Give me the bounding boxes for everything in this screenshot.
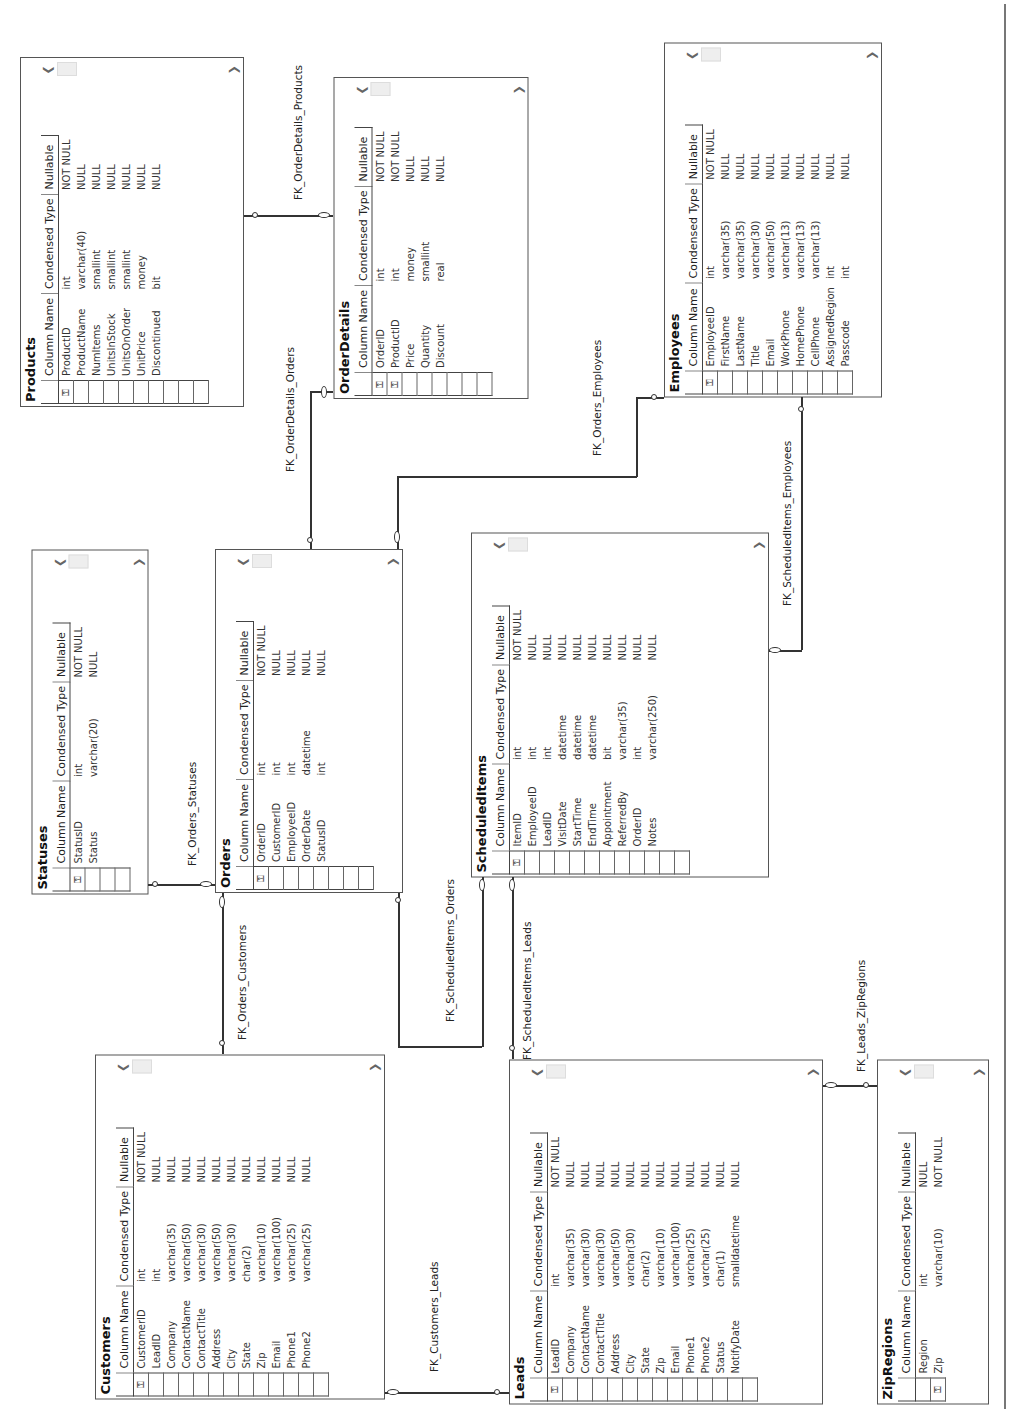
- row-selector[interactable]: [778, 371, 793, 394]
- table-row[interactable]: ContactTitlevarchar(30)NULL: [194, 1127, 209, 1395]
- row-selector[interactable]: [838, 371, 853, 394]
- cell-nullable[interactable]: NULL: [525, 605, 540, 664]
- cell-nullable[interactable]: NULL: [763, 125, 778, 184]
- cell-nullable[interactable]: NULL: [164, 1127, 179, 1186]
- cell-nullable[interactable]: NULL: [194, 1127, 209, 1186]
- rel-line-orders-employees-v2[interactable]: [636, 397, 638, 477]
- cell-nullable[interactable]: NULL: [555, 605, 570, 664]
- empty-row[interactable]: [743, 1132, 758, 1400]
- cell-column-name[interactable]: Company: [563, 1290, 578, 1377]
- row-selector[interactable]: [563, 1378, 578, 1401]
- table-row[interactable]: Zipvarchar(10)NULL: [254, 1127, 269, 1395]
- cell-column-name[interactable]: Zip: [254, 1285, 269, 1372]
- cell-nullable[interactable]: NULL: [314, 621, 329, 680]
- cell-condensed-type[interactable]: varchar(13): [793, 183, 808, 282]
- row-selector[interactable]: [119, 381, 134, 404]
- table-statuses[interactable]: Statuses Column Name Condensed Type Null…: [31, 549, 148, 894]
- cell-column-name[interactable]: ContactTitle: [194, 1285, 209, 1372]
- cell-nullable[interactable]: NULL: [299, 1127, 314, 1186]
- table-row[interactable]: Statuschar(1)NULL: [713, 1132, 728, 1400]
- cell-condensed-type[interactable]: varchar(30): [593, 1191, 608, 1290]
- cell-column-name[interactable]: Quantity: [417, 285, 432, 372]
- row-selector[interactable]: [224, 1373, 239, 1396]
- horizontal-scrollbar[interactable]: ❮ ❯: [52, 553, 144, 571]
- table-title[interactable]: ScheduledItems: [472, 533, 492, 876]
- cell-nullable[interactable]: NULL: [593, 1132, 608, 1191]
- row-selector[interactable]: [525, 851, 540, 874]
- cell-column-name[interactable]: UnitPrice: [134, 293, 149, 380]
- row-selector[interactable]: [645, 851, 660, 874]
- row-selector[interactable]: [104, 381, 119, 404]
- cell-condensed-type[interactable]: varchar(50): [209, 1186, 224, 1285]
- row-selector[interactable]: [630, 851, 645, 874]
- empty-row[interactable]: [100, 622, 115, 890]
- table-row[interactable]: DiscountrealNULL: [432, 127, 447, 395]
- table-body[interactable]: Products Column Name Condensed Type Null…: [20, 57, 244, 407]
- table-row[interactable]: UnitPricemoneyNULL: [134, 135, 149, 403]
- table-employees[interactable]: Employees Column Name Condensed Type Nul…: [664, 42, 882, 397]
- cell-nullable[interactable]: NULL: [540, 605, 555, 664]
- cell-column-name[interactable]: Zip: [653, 1290, 668, 1377]
- row-selector[interactable]: [728, 1378, 743, 1401]
- cell-condensed-type[interactable]: datetime: [299, 680, 314, 779]
- cell-column-name[interactable]: City: [623, 1290, 638, 1377]
- scroll-thumb[interactable]: [508, 537, 528, 551]
- scroll-thumb[interactable]: [914, 1064, 934, 1078]
- row-selector[interactable]: [660, 851, 675, 874]
- row-selector[interactable]: [698, 1378, 713, 1401]
- row-selector[interactable]: [179, 1373, 194, 1396]
- row-selector[interactable]: [194, 1373, 209, 1396]
- table-row[interactable]: Emailvarchar(50)NULL: [763, 125, 778, 394]
- row-selector[interactable]: ⚿: [59, 381, 74, 404]
- row-selector[interactable]: ⚿: [548, 1378, 563, 1401]
- empty-row[interactable]: [194, 135, 209, 403]
- cell-nullable[interactable]: NULL: [417, 127, 432, 186]
- cell-column-name[interactable]: LeadID: [540, 763, 555, 850]
- cell-condensed-type[interactable]: int: [269, 680, 284, 779]
- cell-nullable[interactable]: NULL: [269, 1127, 284, 1186]
- cell-nullable[interactable]: NULL: [89, 135, 104, 194]
- row-selector[interactable]: [74, 381, 89, 404]
- row-selector[interactable]: [134, 381, 149, 404]
- cell-condensed-type[interactable]: varchar(50): [763, 183, 778, 282]
- cell-nullable[interactable]: NULL: [85, 622, 100, 681]
- cell-column-name[interactable]: EmployeeID: [703, 283, 718, 371]
- table-row[interactable]: UnitsInStocksmallintNULL: [104, 135, 119, 403]
- cell-column-name[interactable]: Address: [608, 1290, 623, 1377]
- cell-nullable[interactable]: NULL: [668, 1132, 683, 1191]
- cell-column-name[interactable]: ProductName: [74, 293, 89, 380]
- cell-condensed-type[interactable]: varchar(10): [653, 1191, 668, 1290]
- horizontal-scrollbar[interactable]: ❮ ❯: [116, 1058, 381, 1076]
- table-row[interactable]: LeadIDintNULL: [149, 1127, 164, 1395]
- cell-condensed-type[interactable]: int: [59, 194, 74, 293]
- cell-column-name[interactable]: Email: [668, 1290, 683, 1377]
- cell-condensed-type[interactable]: varchar(25): [284, 1186, 299, 1285]
- cell-condensed-type[interactable]: varchar(10): [254, 1186, 269, 1285]
- chevron-left-icon[interactable]: ❮: [116, 1062, 129, 1071]
- cell-nullable[interactable]: NOT NULL: [134, 1127, 149, 1186]
- table-row[interactable]: CustomerIDintNULL: [269, 621, 284, 889]
- cell-condensed-type[interactable]: char(2): [638, 1191, 653, 1290]
- chevron-right-icon[interactable]: ❯: [386, 557, 399, 566]
- row-selector[interactable]: [149, 381, 164, 404]
- cell-column-name[interactable]: StatusID: [314, 779, 329, 866]
- cell-column-name[interactable]: Status: [713, 1290, 728, 1377]
- cell-nullable[interactable]: NULL: [638, 1132, 653, 1191]
- table-row[interactable]: VisitDatedatetimeNULL: [555, 605, 570, 873]
- empty-row[interactable]: [359, 621, 374, 889]
- empty-row[interactable]: [675, 605, 690, 873]
- table-row[interactable]: Companyvarchar(35)NULL: [164, 1127, 179, 1395]
- rel-line-customers-leads[interactable]: [385, 1392, 509, 1394]
- scroll-thumb[interactable]: [57, 62, 77, 76]
- cell-column-name[interactable]: UnitsInStock: [104, 293, 119, 380]
- empty-row[interactable]: [329, 621, 344, 889]
- chevron-right-icon[interactable]: ❯: [806, 1067, 819, 1076]
- chevron-right-icon[interactable]: ❯: [131, 557, 144, 566]
- table-row[interactable]: StatusIDintNULL: [314, 621, 329, 889]
- cell-condensed-type[interactable]: char(1): [713, 1191, 728, 1290]
- row-selector[interactable]: [600, 851, 615, 874]
- cell-condensed-type[interactable]: varchar(25): [683, 1191, 698, 1290]
- rel-line-scheduleditems-orders-v2[interactable]: [482, 877, 484, 1047]
- cell-nullable[interactable]: NULL: [209, 1127, 224, 1186]
- table-title[interactable]: Statuses: [32, 550, 52, 893]
